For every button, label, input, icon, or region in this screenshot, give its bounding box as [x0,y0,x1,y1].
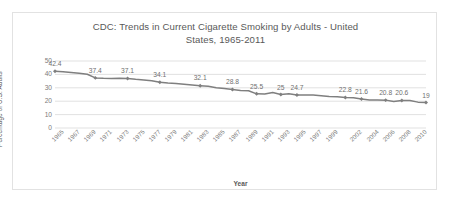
data-point-label: 32.1 [188,74,212,81]
x-axis-title: Year [55,180,426,187]
y-axis-tick-label: 10 [35,111,52,119]
data-point-label: 28.8 [220,78,244,85]
data-point-label: 37.4 [83,67,107,74]
y-axis-tick-labels: 01020304050 [35,56,52,133]
y-axis-title: Percentage of U.S. Adults [0,61,8,157]
data-point-label: 37.1 [116,67,140,74]
y-axis-tick-label: 20 [35,97,52,105]
chart-title-line-2: States, 1965-2011 [186,34,265,45]
chart-title-line-1: CDC: Trends in Current Cigarette Smoking… [93,21,359,32]
x-axis-tick-labels: 1965196719691971197319751977197919811983… [55,133,426,177]
y-axis-tick-label: 30 [35,84,52,92]
data-point-labels: 42.437.437.134.132.128.825.52524.722.821… [55,61,426,128]
data-point-label: 20.6 [390,89,414,96]
data-point-label: 21.6 [349,88,373,95]
y-axis-tick-label: 0 [35,124,52,132]
data-point-label: 19 [414,92,438,99]
y-axis-tick-label: 40 [35,70,52,78]
chart-title: CDC: Trends in Current Cigarette Smoking… [27,20,424,46]
chart-container: CDC: Trends in Current Cigarette Smoking… [12,12,437,190]
data-point-label: 25.5 [245,83,269,90]
data-point-label: 24.7 [285,84,309,91]
data-point-label: 42.4 [43,60,67,67]
data-point-label: 34.1 [148,71,172,78]
